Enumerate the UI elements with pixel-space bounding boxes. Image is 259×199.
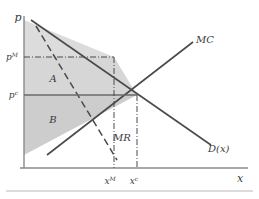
tick-quantity-monopoly-sup: M xyxy=(108,175,116,182)
tick-label-price-monopoly: pM xyxy=(6,51,19,62)
marginal-revenue-label: MR xyxy=(112,132,131,143)
region-a-label: A xyxy=(48,73,56,84)
tick-label-quantity-competitive: xc xyxy=(130,175,139,186)
monopoly-welfare-diagram: p x pM pc xM xc MC D(x) MR A B xyxy=(0,0,259,199)
shade-above-pm xyxy=(24,20,114,57)
x-axis-label: x xyxy=(237,172,244,185)
shade-region-b xyxy=(24,95,137,155)
tick-quantity-competitive-sup: c xyxy=(135,175,139,182)
figure-container: p x pM pc xM xc MC D(x) MR A B xyxy=(0,0,259,199)
tick-price-monopoly-sup: M xyxy=(11,51,19,58)
shade-region-a xyxy=(24,57,137,95)
region-b-label: B xyxy=(48,114,56,125)
y-axis-label: p xyxy=(14,11,21,24)
tick-label-price-competitive: pc xyxy=(9,89,19,100)
marginal-cost-label: MC xyxy=(195,34,214,45)
demand-label: D(x) xyxy=(207,143,230,154)
tick-price-competitive-sup: c xyxy=(15,89,19,96)
tick-label-quantity-monopoly: xM xyxy=(104,175,116,186)
